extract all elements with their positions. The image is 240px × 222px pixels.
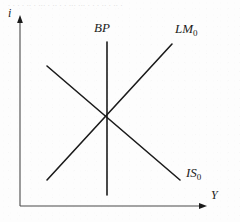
output-axis-label: Y bbox=[211, 189, 218, 201]
interest-rate-axis-label: i bbox=[8, 7, 11, 19]
lm-label-subscript: 0 bbox=[193, 28, 198, 38]
is-lm-bp-figure: . . . . .. . ... . .. . . ... ... . . . … bbox=[0, 0, 240, 222]
lm-curve bbox=[47, 44, 172, 180]
lm-curve-label: LM0 bbox=[175, 22, 198, 37]
interest-rate-axis bbox=[17, 15, 23, 206]
is-curve bbox=[47, 66, 180, 180]
is-label-subscript: 0 bbox=[197, 172, 202, 182]
bp-label-text: BP bbox=[94, 20, 110, 35]
is-label-text: IS bbox=[186, 165, 197, 180]
bp-curve-label: BP bbox=[94, 21, 110, 34]
is-curve-label: IS0 bbox=[186, 166, 201, 181]
diagram-canvas bbox=[0, 0, 240, 222]
output-axis bbox=[20, 203, 207, 209]
lm-label-text: LM bbox=[175, 21, 193, 36]
